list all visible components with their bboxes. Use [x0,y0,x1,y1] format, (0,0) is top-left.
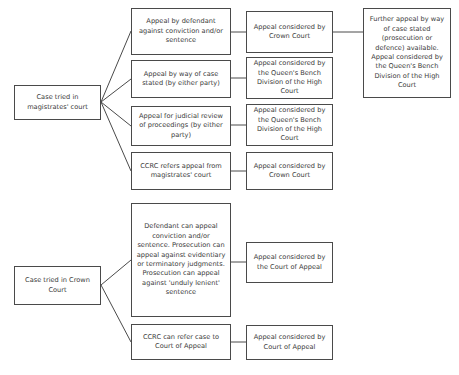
node-crown-outcome-court-of-appeal-1: Appeal considered by the Court of Appeal [246,242,333,283]
connector-crown-origin-to-appeals [101,260,131,285]
node-label: Appeal considered by Court of Appeal [250,333,329,352]
node-label: Appeal by way of case stated (by either … [135,70,227,89]
node-label: Case tried in magistrates' court [18,93,97,112]
node-label: Defendant can appeal conviction and/or s… [135,222,227,297]
node-label: CCRC can refer case to Court of Appeal [135,333,227,352]
node-mag-outcome-crown-court-1: Appeal considered by Crown Court [246,11,333,53]
node-mag-outcome-qbd-2: Appeal considered by the Queen's Bench D… [246,104,333,146]
node-crown-route-appeals: Defendant can appeal conviction and/or s… [131,203,231,317]
node-mag-route-defendant-appeal: Appeal by defendant against conviction a… [131,8,231,55]
node-label: CCRC refers appeal from magistrates' cou… [135,162,227,181]
node-label: Appeal considered by the Queen's Bench D… [250,106,329,144]
node-crown-outcome-court-of-appeal-2: Appeal considered by Court of Appeal [246,325,333,360]
node-mag-outcome-qbd-1: Appeal considered by the Queen's Bench D… [246,57,333,99]
node-mag-route-judicial-review: Appeal for judicial review of proceeding… [131,106,231,146]
node-label: Appeal considered by Crown Court [250,23,329,42]
node-label: Case tried in Crown Court [18,276,97,295]
node-mag-route-ccrc: CCRC refers appeal from magistrates' cou… [131,152,231,190]
node-mag-outcome-crown-court-2: Appeal considered by Crown Court [246,152,333,190]
node-label: Appeal considered by Crown Court [250,162,329,181]
node-label: Appeal considered by the Court of Appeal [250,253,329,272]
node-label: Appeal considered by the Queen's Bench D… [250,59,329,97]
connector-mag-to-case-stated [101,79,131,102]
flowchart-canvas: Case tried in magistrates' courtAppeal b… [0,0,459,375]
connector-crown-origin-to-ccrc [101,285,131,342]
node-label: Further appeal by way of case stated (pr… [367,15,447,90]
node-further-appeal-qbd: Further appeal by way of case stated (pr… [363,8,451,98]
connector-mag-to-ccrc [101,102,131,171]
node-crown-route-ccrc: CCRC can refer case to Court of Appeal [131,324,231,360]
node-label: Appeal by defendant against conviction a… [135,17,227,45]
node-crown-origin: Case tried in Crown Court [14,266,101,305]
node-mag-route-case-stated: Appeal by way of case stated (by either … [131,60,231,98]
connector-mag-to-defendant-appeal [101,31,131,102]
node-label: Appeal for judicial review of proceeding… [135,112,227,140]
node-magistrates-origin: Case tried in magistrates' court [14,85,101,120]
connector-mag-to-judicial-review [101,102,131,126]
